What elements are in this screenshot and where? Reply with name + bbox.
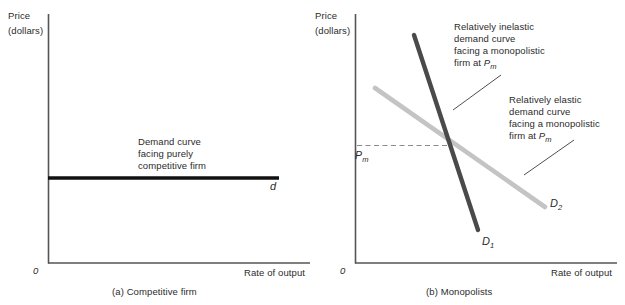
annotation-elastic-line3: facing a monopolistic [509,118,600,130]
origin-label-a: 0 [33,265,38,277]
annotation-inelastic-line4: firm at Pm [454,57,497,73]
annotation-inelastic-line4-sub: m [490,62,496,71]
panel-monopolists: Price (dollars) Pm 0 Rate of output Rela… [312,0,625,305]
x-axis-label-b: Rate of output [551,267,612,279]
y-axis-label-b-line1: Price [315,10,337,22]
y-axis-label-a-line1: Price [8,10,30,22]
y-axis-label-b-line2: (dollars) [315,25,350,37]
price-label-pm-subscript: m [362,155,368,164]
x-axis-label-a: Rate of output [244,267,305,279]
annotation-competitive-line1: Demand curve [138,136,201,148]
annotation-competitive-line3: competitive firm [138,160,206,172]
caption-panel-b: (b) Monopolists [426,286,492,298]
price-label-pm: Pm [337,138,369,177]
caption-panel-a: (a) Competitive firm [112,286,197,298]
figure-container: Price (dollars) 0 Rate of output Demand … [0,0,625,305]
annotation-inelastic-line2: demand curve [454,33,515,45]
annotation-elastic-line4: firm at Pm [509,130,552,146]
annotation-inelastic-line4-pre: firm at [454,57,484,68]
origin-label-b: 0 [340,265,345,277]
curve-label-d2-base: D [550,197,558,209]
annotation-inelastic-line1: Relatively inelastic [454,21,534,33]
curve-label-d1: D1 [482,236,494,252]
leader-line-inelastic [453,75,501,110]
curve-label-d: d [270,181,276,193]
annotation-inelastic-line3: facing a monopolistic [454,45,545,57]
annotation-elastic-line1: Relatively elastic [509,94,582,106]
annotation-elastic-line2: demand curve [509,106,570,118]
annotation-competitive-line2: facing purely [138,148,193,160]
annotation-elastic-line4-sub: m [545,135,551,144]
panel-competitive-firm: Price (dollars) 0 Rate of output Demand … [0,0,312,305]
curve-label-d1-subscript: 1 [490,241,494,250]
curve-label-d2: D2 [550,198,562,214]
y-axis-label-a-line2: (dollars) [8,25,43,37]
curve-label-d1-base: D [482,235,490,247]
curve-label-d2-subscript: 2 [558,203,562,212]
annotation-elastic-line4-pre: firm at [509,130,539,141]
